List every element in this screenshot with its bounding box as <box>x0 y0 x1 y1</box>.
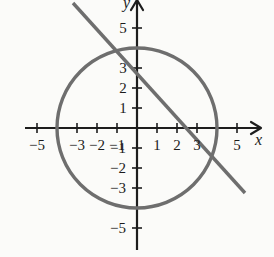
line-curve <box>73 3 245 193</box>
y-tick-label-3: 3 <box>119 60 127 77</box>
plot-canvas <box>0 0 274 257</box>
y-tick-label-2: 2 <box>119 80 127 97</box>
y-axis-label: y <box>123 0 130 12</box>
y-tick-label-1: 1 <box>119 100 127 117</box>
x-tick-label-5: 5 <box>233 137 241 154</box>
plotted-curves <box>57 3 245 208</box>
y-tick-label--1: −1 <box>110 140 126 157</box>
x-axis-label: x <box>255 131 262 149</box>
x-tick-label--2: −2 <box>89 137 105 154</box>
y-tick-label--3: −3 <box>110 180 126 197</box>
y-tick-label--5: −5 <box>110 220 126 237</box>
x-tick-label--5: −5 <box>29 137 45 154</box>
x-tick-label--3: −3 <box>69 137 85 154</box>
y-tick-label--2: −2 <box>110 160 126 177</box>
x-tick-label-1: 1 <box>153 137 161 154</box>
y-tick-label-5: 5 <box>119 20 127 37</box>
axis-lines <box>25 0 261 250</box>
x-tick-label-2: 2 <box>173 137 181 154</box>
x-tick-label-3: 3 <box>193 137 201 154</box>
coordinate-plot-figure: ) x y −5−3−2−112355321−1−2−3−5 <box>0 0 274 257</box>
